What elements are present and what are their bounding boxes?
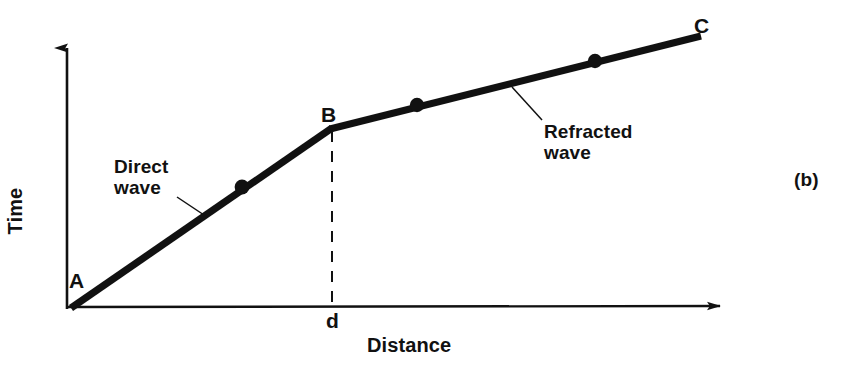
refracted-wave-line bbox=[330, 36, 701, 129]
data-point-marker bbox=[588, 54, 602, 68]
travel-time-curve-figure: Time Distance d A B C Direct wave Refrac… bbox=[0, 0, 850, 371]
point-label-b: B bbox=[321, 103, 336, 127]
panel-label: (b) bbox=[794, 169, 819, 190]
x-axis-title: Distance bbox=[367, 334, 451, 356]
data-point-marker bbox=[410, 98, 424, 112]
direct-wave-annotation: Direct wave bbox=[114, 156, 168, 199]
x-axis-tick-label-d: d bbox=[326, 309, 339, 333]
direct-wave-leader-line bbox=[177, 197, 207, 217]
point-label-c: C bbox=[694, 14, 709, 38]
refracted-wave-leader-line bbox=[512, 87, 542, 120]
refracted-wave-annotation: Refracted wave bbox=[544, 121, 633, 164]
point-label-a: A bbox=[69, 269, 84, 293]
x-axis bbox=[68, 306, 720, 307]
direct-wave-line bbox=[71, 128, 332, 308]
y-axis-title: Time bbox=[4, 188, 26, 235]
data-point-marker bbox=[235, 180, 250, 195]
